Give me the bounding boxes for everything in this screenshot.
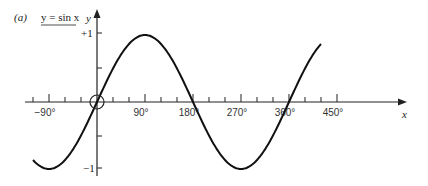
- sine-chart: +1 −1 y x −90°90°180°270°360°450° (a) y …: [0, 0, 428, 186]
- x-tick-label: 270°: [227, 107, 248, 118]
- x-axis-label: x: [401, 108, 407, 120]
- y-minus-label: −1: [83, 162, 95, 174]
- x-tick-label: −90°: [35, 107, 56, 118]
- part-label: (a): [14, 11, 27, 24]
- x-axis-arrow-icon: [398, 99, 407, 106]
- x-tick-label: 90°: [133, 107, 148, 118]
- y-plus-label: +1: [81, 27, 93, 39]
- y-axis-arrow-icon: [94, 9, 101, 18]
- equation-title: y = sin x: [41, 11, 80, 23]
- x-tick-label: 450°: [323, 107, 344, 118]
- x-tick-labels: −90°90°180°270°360°450°: [35, 107, 344, 118]
- y-axis-label: y: [85, 12, 91, 24]
